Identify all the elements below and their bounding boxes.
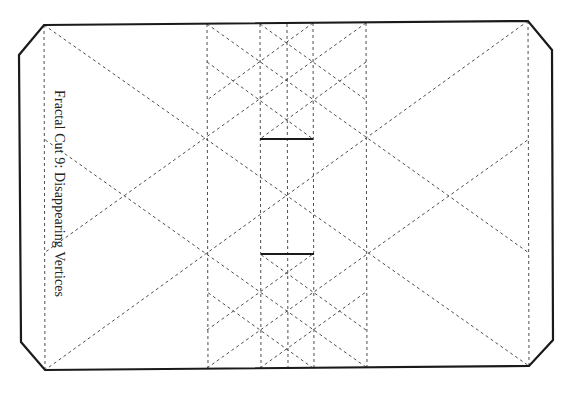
fold-vertical-right [528,21,529,366]
fold-vertical-2 [207,24,208,368]
diagram-canvas [0,0,576,395]
fold-vertical-left [44,25,45,370]
fold-diagonal-main-1 [44,25,529,366]
fold-vertical-6 [366,23,367,367]
fold-vertical-5 [313,23,314,368]
fractal-cut-diagram: Fractal Cut 9: Disappearing Vertices [0,0,576,395]
figure-title: Fractal Cut 9: Disappearing Vertices [47,90,67,320]
fold-lines [44,21,529,370]
fold-vertical-center [287,24,288,368]
fold-vertical-3 [260,24,261,368]
fold-diagonal-3 [207,24,529,253]
fold-diagonal-4 [44,23,366,253]
